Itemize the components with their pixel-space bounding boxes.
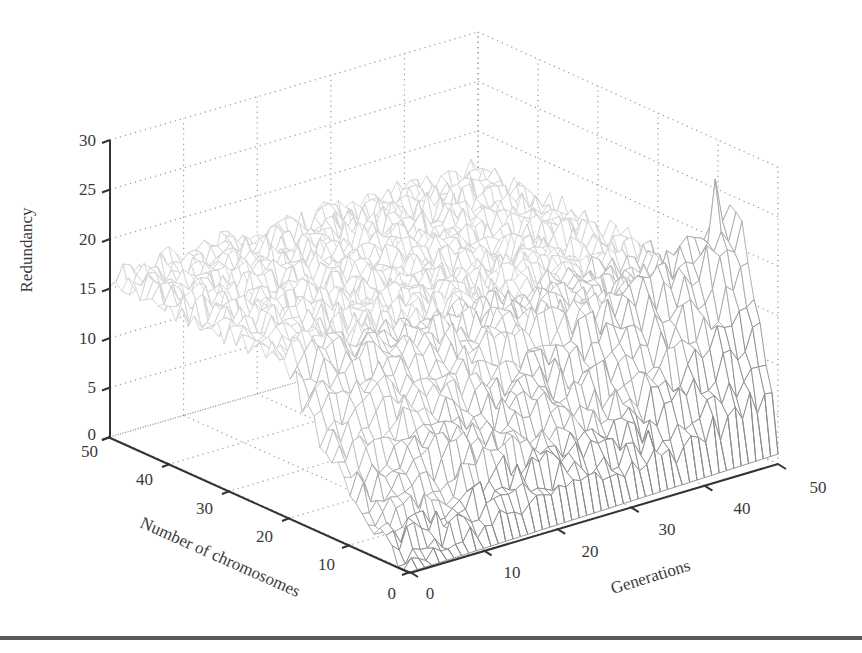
chromosome-tick-label: 0 bbox=[388, 584, 397, 603]
generation-axis-title: Generations bbox=[608, 556, 692, 598]
chromosome-tick bbox=[282, 518, 290, 521]
z-tick bbox=[102, 140, 110, 143]
chromosome-tick-label: 10 bbox=[318, 555, 335, 574]
z-tick bbox=[102, 239, 110, 242]
generation-tick bbox=[484, 550, 492, 555]
chromosome-tick bbox=[402, 572, 410, 575]
chromosome-tick bbox=[162, 464, 170, 467]
chromosome-tick bbox=[222, 491, 230, 494]
generation-tick bbox=[557, 529, 565, 534]
generation-tick-label: 10 bbox=[504, 563, 521, 582]
generation-tick bbox=[778, 464, 786, 469]
generation-tick-label: 30 bbox=[659, 520, 676, 539]
z-tick-label: 15 bbox=[79, 279, 96, 298]
chromosome-tick-label: 40 bbox=[136, 470, 153, 489]
generation-tick-label: 20 bbox=[582, 542, 599, 561]
surface-chart: 30 25 20 15 10 5 0 50 40 30 20 10 0 0 10… bbox=[0, 0, 862, 653]
grid-line bbox=[110, 32, 478, 140]
chromosome-tick-label: 50 bbox=[81, 442, 98, 461]
z-tick-label: 10 bbox=[79, 329, 96, 348]
generation-tick-label: 50 bbox=[810, 478, 827, 497]
chromosome-tick bbox=[102, 437, 110, 440]
z-tick-label: 5 bbox=[88, 378, 97, 397]
bottom-rule bbox=[0, 636, 862, 640]
z-axis-title: Redundancy bbox=[17, 207, 36, 292]
generation-tick-label: 40 bbox=[734, 499, 751, 518]
z-tick bbox=[102, 388, 110, 391]
chromosome-tick-label: 20 bbox=[256, 527, 273, 546]
z-tick-label: 20 bbox=[79, 230, 96, 249]
generation-tick-label: 0 bbox=[426, 584, 435, 603]
grid-line bbox=[110, 82, 478, 190]
chromosome-tick bbox=[342, 545, 350, 548]
z-tick-label: 30 bbox=[79, 131, 96, 150]
generation-tick bbox=[631, 507, 639, 512]
z-tick bbox=[102, 338, 110, 341]
grid-line bbox=[478, 32, 778, 167]
z-tick bbox=[102, 190, 110, 193]
z-tick-label: 25 bbox=[79, 180, 96, 199]
chromosome-tick-label: 30 bbox=[196, 499, 213, 518]
chromosome-axis-title: Number of chromosomes bbox=[137, 513, 303, 601]
generation-tick bbox=[704, 486, 712, 491]
z-tick bbox=[102, 289, 110, 292]
mesh-cell bbox=[218, 318, 231, 344]
